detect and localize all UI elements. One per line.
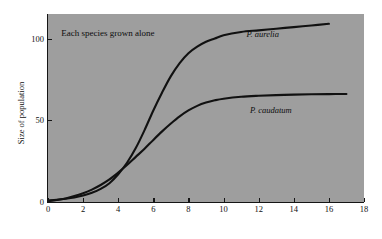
x-tick-label: 0	[46, 205, 50, 214]
x-tick-mark	[153, 198, 154, 202]
x-tick-label: 2	[81, 205, 85, 214]
x-tick-label: 8	[186, 205, 190, 214]
x-tick-label: 6	[151, 205, 155, 214]
x-tick-mark	[364, 198, 365, 202]
figure-container: Each species grown alone P. aurelia P. c…	[0, 0, 382, 239]
curve-p-caudatum	[48, 94, 346, 201]
y-tick-label: 100	[22, 34, 44, 43]
x-tick-label: 18	[360, 205, 369, 214]
x-tick-mark	[48, 198, 49, 202]
y-tick-mark	[48, 39, 52, 40]
x-tick-mark	[118, 198, 119, 202]
x-tick-mark	[224, 198, 225, 202]
plot-curves-svg	[48, 14, 364, 202]
y-axis-title: Size of population	[16, 48, 26, 178]
x-tick-mark	[188, 198, 189, 202]
y-axis-spine	[47, 14, 48, 203]
x-tick-mark	[259, 198, 260, 202]
x-tick-mark	[294, 198, 295, 202]
x-tick-label: 16	[325, 205, 334, 214]
x-tick-mark	[83, 198, 84, 202]
x-tick-label: 14	[290, 205, 299, 214]
x-tick-label: 12	[254, 205, 263, 214]
y-tick-mark	[48, 120, 52, 121]
y-tick-mark	[48, 202, 52, 203]
x-tick-label: 4	[116, 205, 120, 214]
x-axis-spine	[47, 202, 364, 203]
plot-area: Each species grown alone P. aurelia P. c…	[48, 14, 364, 202]
y-tick-label: 0	[22, 198, 44, 207]
curve-label-p-caudatum: P. caudatum	[250, 106, 292, 115]
annotation-grown-alone: Each species grown alone	[61, 29, 154, 38]
x-tick-mark	[329, 198, 330, 202]
curve-label-p-aurelia: P. aurelia	[246, 30, 279, 39]
x-tick-label: 10	[219, 205, 228, 214]
